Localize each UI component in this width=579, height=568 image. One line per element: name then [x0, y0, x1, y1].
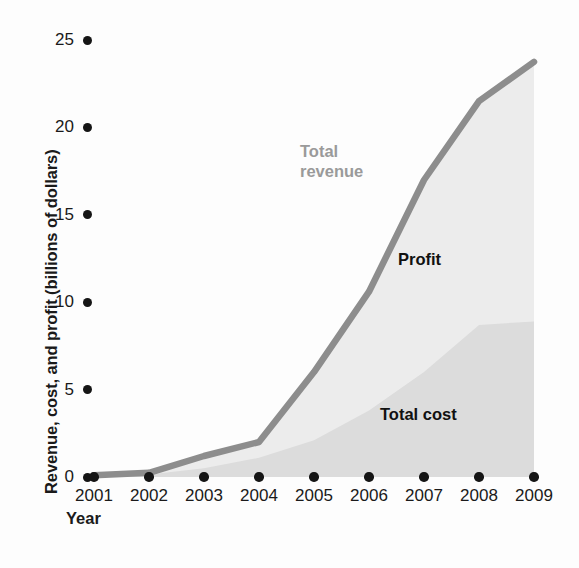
x-tick-dot-2003 [199, 472, 209, 482]
x-tick-label-2006: 2006 [338, 486, 400, 506]
y-tick-label-0: 0 [38, 467, 74, 487]
x-tick-dot-2006 [364, 472, 374, 482]
stacked-areas [94, 62, 534, 477]
series-label-total-revenue: Total revenue [300, 141, 410, 181]
x-tick-dot-2007 [419, 472, 429, 482]
x-tick-label-2007: 2007 [393, 486, 455, 506]
y-tick-label-10: 10 [38, 292, 74, 312]
y-tick-dot-25 [83, 36, 92, 45]
series-label-total-cost: Total cost [380, 404, 457, 424]
x-tick-dot-2002 [144, 472, 154, 482]
y-tick-dot-5 [83, 385, 92, 394]
x-tick-label-2009: 2009 [503, 486, 565, 506]
chart-figure: Revenue, cost, and profit (billions of d… [0, 0, 579, 568]
y-tick-label-25: 25 [38, 30, 74, 50]
x-tick-dot-2001 [89, 472, 99, 482]
x-tick-label-2008: 2008 [448, 486, 510, 506]
x-tick-label-2001: 2001 [63, 486, 125, 506]
plot-area [0, 0, 579, 568]
y-tick-label-15: 15 [38, 205, 74, 225]
x-tick-label-2004: 2004 [228, 486, 290, 506]
y-tick-dot-20 [83, 123, 92, 132]
x-tick-dot-2005 [309, 472, 319, 482]
x-axis-title: Year [66, 509, 101, 528]
x-tick-label-2005: 2005 [283, 486, 345, 506]
x-tick-dot-2009 [529, 472, 539, 482]
y-tick-dot-10 [83, 298, 92, 307]
y-tick-label-20: 20 [38, 117, 74, 137]
x-tick-dot-2004 [254, 472, 264, 482]
series-label-profit: Profit [398, 249, 441, 269]
x-tick-dot-2008 [474, 472, 484, 482]
y-tick-dot-15 [83, 210, 92, 219]
x-tick-label-2002: 2002 [118, 486, 180, 506]
x-tick-label-2003: 2003 [173, 486, 235, 506]
y-tick-label-5: 5 [38, 380, 74, 400]
